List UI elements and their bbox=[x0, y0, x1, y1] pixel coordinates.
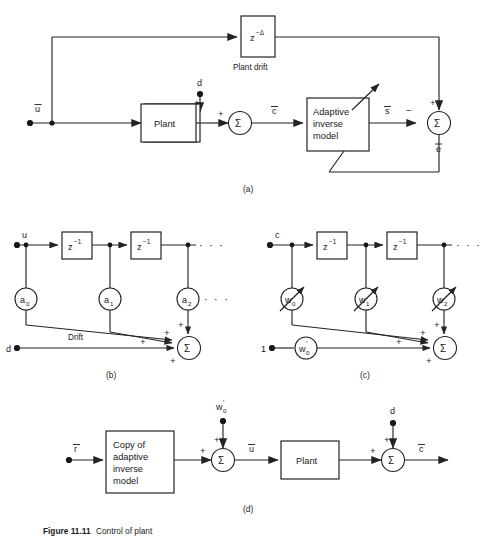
panel-c: c z −1 z −1 · · · w 0 w 1 w 2 bbox=[261, 230, 482, 380]
delay-block-a-exponent: −Δ bbox=[256, 29, 265, 36]
caption-text: Control of plant bbox=[96, 526, 153, 536]
copy-line-4: model bbox=[113, 476, 138, 486]
gain-a0-sub: 0 bbox=[26, 300, 30, 307]
label-d-b: d bbox=[6, 344, 11, 354]
panel-label-a: (a) bbox=[243, 184, 253, 194]
label-d-a: d bbox=[197, 78, 202, 88]
sign-plus-c-mid: + bbox=[420, 327, 426, 338]
delay-block-a bbox=[241, 16, 275, 57]
plant-block-d-label: Plant bbox=[296, 456, 318, 466]
summer-1-d-symbol: Σ bbox=[218, 455, 224, 466]
sign-plus-d2-left: + bbox=[370, 445, 376, 456]
label-one-c: 1 bbox=[261, 344, 266, 354]
summer-1-a-symbol: Σ bbox=[235, 118, 241, 129]
ellipsis-gain-b: · · · bbox=[204, 293, 230, 305]
delay-block-c-1 bbox=[317, 232, 347, 259]
gain-a2-base: a bbox=[182, 295, 187, 305]
summer-2-d-symbol: Σ bbox=[388, 455, 394, 466]
delay-b-2-exp: −1 bbox=[143, 238, 151, 245]
weight-w1-sub: 1 bbox=[366, 300, 370, 307]
delay-block-c-2 bbox=[387, 232, 417, 259]
sign-plus-summer1-top-a: + bbox=[194, 97, 200, 108]
plant-drift-caption: Plant drift bbox=[233, 63, 268, 72]
delay-block-b-1 bbox=[62, 232, 92, 259]
sign-plus-b-mid: + bbox=[164, 327, 170, 338]
delay-c-1-base: z bbox=[323, 242, 328, 252]
delay-c-2-exp: −1 bbox=[399, 238, 407, 245]
gain-a1-base: a bbox=[104, 295, 109, 305]
wire-error-into-block-a bbox=[329, 151, 344, 172]
sign-plus-d1-top: + bbox=[214, 434, 220, 445]
delay-block-a-base: z bbox=[250, 32, 255, 43]
bias-label-d-sub: 0 bbox=[223, 407, 227, 414]
bias-label-d-prime: ′ bbox=[223, 399, 225, 406]
panel-d: r Copy of adaptive inverse model + w 0 ′… bbox=[66, 399, 448, 514]
adaptive-line-2: inverse bbox=[313, 119, 343, 129]
weight-w0prime-sub: 0 bbox=[306, 349, 310, 356]
plant-block-a-label2: Plant bbox=[154, 119, 176, 129]
gain-a2-sub: 2 bbox=[188, 300, 192, 307]
gain-a1-sub: 1 bbox=[110, 300, 114, 307]
wire-w0-to-sum-c bbox=[292, 325, 428, 340]
bias-label-d-base: w bbox=[215, 402, 223, 412]
delay-b-1-base: z bbox=[68, 242, 73, 252]
label-c-c: c bbox=[275, 230, 280, 240]
sign-plus-c-bot: + bbox=[426, 355, 432, 366]
sign-plus-summer2-a: + bbox=[430, 97, 436, 108]
label-c-a: c bbox=[272, 106, 277, 116]
panel-a: u z −Δ Plant drift d Plant Plant + + bbox=[27, 16, 451, 194]
ellipsis-line-c: · · · bbox=[456, 239, 482, 251]
summer-b-symbol: Σ bbox=[184, 343, 190, 354]
weight-w0prime-base: w bbox=[298, 344, 306, 354]
copy-line-3: inverse bbox=[113, 464, 143, 474]
adaptive-line-3: model bbox=[313, 131, 338, 141]
sign-plus-d1-left: + bbox=[200, 445, 206, 456]
label-u-d: u bbox=[249, 444, 254, 454]
delay-c-1-exp: −1 bbox=[329, 238, 337, 245]
copy-line-2: adaptive bbox=[113, 452, 148, 462]
sign-plus-d2-top: + bbox=[384, 434, 390, 445]
panel-b: u z −1 z −1 · · · a 0 a 1 a 2 · · · bbox=[6, 230, 230, 380]
sign-plus-c-bias: + bbox=[396, 336, 402, 347]
adaptive-line-1: Adaptive bbox=[313, 107, 349, 117]
caption-figure-number: Figure 11.11 bbox=[43, 526, 91, 536]
summer-2-a-symbol: Σ bbox=[434, 118, 440, 129]
label-output-c-d: c bbox=[419, 444, 424, 454]
weight-w0-sub: 0 bbox=[292, 300, 296, 307]
gain-a0-base: a bbox=[20, 295, 25, 305]
delay-block-b-2 bbox=[131, 232, 161, 259]
copy-line-1: Copy of bbox=[113, 440, 145, 450]
delay-b-1-exp: −1 bbox=[74, 238, 82, 245]
drift-label-b: Drift bbox=[68, 333, 84, 342]
figure-adaptive-inverse-control: u z −Δ Plant drift d Plant Plant + + bbox=[0, 0, 500, 536]
panel-label-d: (d) bbox=[243, 504, 253, 514]
wire-a0-to-sum-b bbox=[26, 325, 172, 340]
label-u-b: u bbox=[22, 230, 27, 240]
delay-c-2-base: z bbox=[393, 242, 398, 252]
sign-plus-b-top: + bbox=[178, 319, 184, 330]
sign-plus-b-drift: + bbox=[140, 336, 146, 347]
panel-label-c: (c) bbox=[360, 370, 370, 380]
sign-plus-c-top: + bbox=[434, 319, 440, 330]
sign-plus-b-bot: + bbox=[170, 355, 176, 366]
label-s-a: s bbox=[385, 106, 390, 116]
delay-b-2-base: z bbox=[137, 242, 142, 252]
sign-plus-summer1-left-a: + bbox=[218, 108, 224, 119]
label-r-d: r bbox=[74, 444, 77, 454]
label-u-a: u bbox=[35, 104, 40, 114]
ellipsis-line-b: · · · bbox=[199, 239, 225, 251]
summer-c-symbol: Σ bbox=[440, 343, 446, 354]
label-d-d: d bbox=[390, 406, 395, 416]
figure-caption: Figure 11.11 Control of plant bbox=[43, 526, 153, 536]
weight-w2-sub: 2 bbox=[444, 300, 448, 307]
sign-minus-summer2-a: − bbox=[406, 105, 412, 116]
panel-label-b: (b) bbox=[106, 370, 116, 380]
